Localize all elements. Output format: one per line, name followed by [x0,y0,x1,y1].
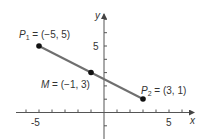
label-p1: P1 = (−5, 5) [19,29,70,41]
point-p2 [140,96,146,102]
label-m: M = (−1, 3) [41,79,90,90]
point-p1 [36,43,42,49]
y-axis-label: y [94,10,101,21]
x-axis-label: x [189,115,196,126]
point-m [88,70,94,76]
midpoint-chart: x y -5 5 5 P1 = (−5, 5) M = (−1, 3) P2 =… [0,0,208,139]
x-tick-label-neg5: -5 [31,117,40,128]
label-p2: P2 = (3, 1) [141,85,186,97]
y-tick-label-5: 5 [93,41,99,52]
x-tick-label-5: 5 [166,117,172,128]
